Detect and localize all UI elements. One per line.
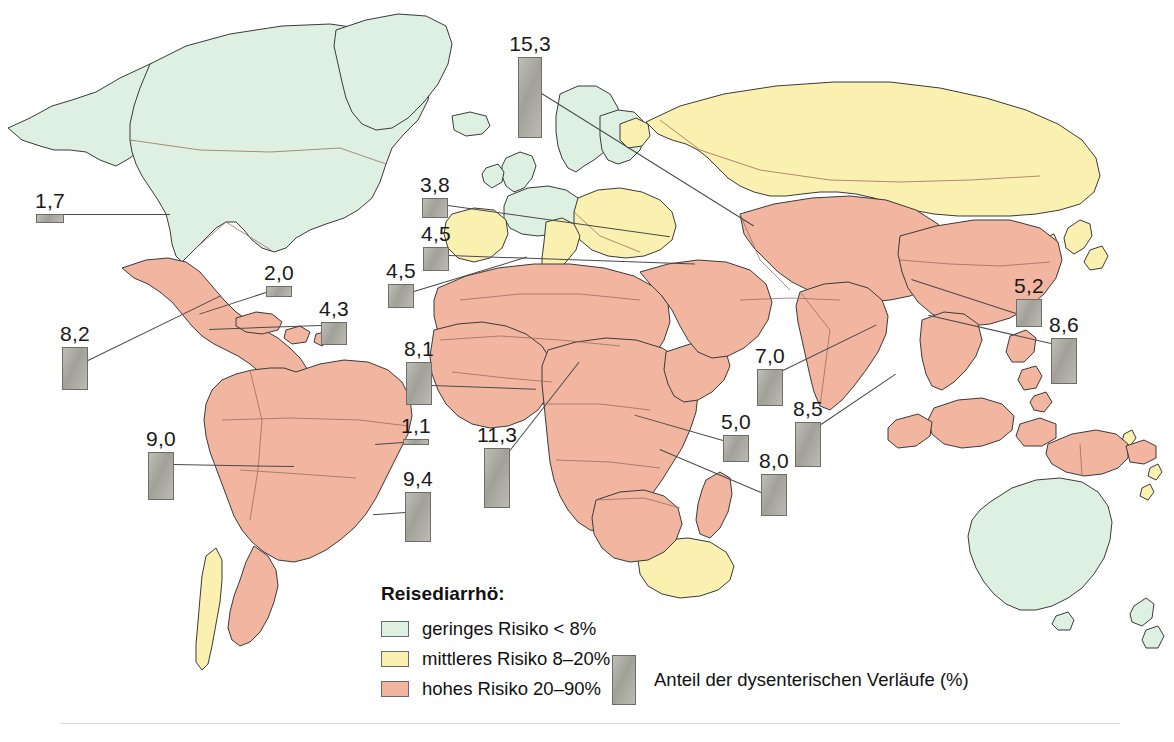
legend-label-low: geringes Risiko < 8% [422,618,596,640]
value-bar [1016,299,1042,327]
value-label: 1,7 [35,189,65,213]
data-marker: 4,5 [423,247,449,271]
legend: Reisediarrhö: geringes Risiko < 8%mittle… [381,583,610,704]
value-bar [423,247,449,271]
value-label: 8,6 [1049,313,1079,337]
value-label: 2,0 [264,261,294,285]
data-marker: 7,0 [757,369,783,406]
legend-title: Reisediarrhö: [381,583,610,605]
data-marker: 1,1 [403,439,429,445]
value-bar [518,57,542,138]
data-marker: 1,7 [36,214,64,223]
value-bar [761,474,787,516]
value-bar [36,214,64,223]
value-label: 7,0 [755,344,785,368]
value-label: 1,1 [401,414,431,438]
legend-swatch-high [381,681,409,697]
value-bar [148,452,174,500]
value-label: 9,4 [403,467,433,491]
legend-swatch-low [381,621,409,637]
value-label: 8,1 [404,337,434,361]
value-label: 4,5 [421,222,451,246]
value-bar [406,362,432,405]
value-bar [403,439,429,445]
value-bar [405,492,431,542]
value-label: 9,0 [146,427,176,451]
value-label: 8,2 [60,322,90,346]
value-label: 5,2 [1014,274,1044,298]
legend-label-high: hohes Risiko 20–90% [422,678,601,700]
legend-swatch-medium [381,651,409,667]
value-label: 8,0 [759,449,789,473]
value-bar [1051,338,1077,384]
value-bar [795,422,821,467]
value-label: 3,8 [420,173,450,197]
data-marker: 8,0 [761,474,787,516]
bar-legend-label: Anteil der dysenterischen Verläufe (%) [654,669,969,691]
bar-legend-swatch [612,655,636,705]
legend-rows: geringes Risiko < 8%mittleres Risiko 8–2… [381,614,610,704]
value-bar [422,198,448,218]
leader-line [64,214,170,215]
value-bar [484,448,510,508]
data-marker: 8,6 [1051,338,1077,384]
value-label: 8,5 [793,397,823,421]
value-bar [62,347,88,390]
data-marker: 15,3 [518,57,542,138]
data-marker: 11,3 [484,448,510,508]
value-label: 4,3 [319,297,349,321]
value-label: 15,3 [509,32,551,56]
value-bar [388,284,414,308]
data-marker: 8,2 [62,347,88,390]
legend-item-medium: mittleres Risiko 8–20% [381,644,610,674]
data-marker: 4,5 [388,284,414,308]
legend-item-high: hohes Risiko 20–90% [381,674,610,704]
value-label: 4,5 [386,259,416,283]
legend-label-medium: mittleres Risiko 8–20% [422,648,610,670]
data-marker: 2,0 [266,286,292,297]
data-marker: 3,8 [422,198,448,218]
value-label: 5,0 [721,410,751,434]
data-marker: 4,3 [321,322,347,345]
value-bar [757,369,783,406]
data-marker: 9,0 [148,452,174,500]
figure-root: 1,715,33,84,54,58,22,04,38,11,111,39,45,… [0,0,1174,742]
data-marker: 5,2 [1016,299,1042,327]
data-marker: 8,1 [406,362,432,405]
bar-legend: Anteil der dysenterischen Verläufe (%) [612,655,969,705]
data-marker: 5,0 [723,435,749,462]
value-bar [723,435,749,462]
data-marker: 9,4 [405,492,431,542]
legend-item-low: geringes Risiko < 8% [381,614,610,644]
data-marker: 8,5 [795,422,821,467]
footer-rule [60,723,1120,724]
value-bar [321,322,347,345]
value-bar [266,286,292,297]
value-label: 11,3 [477,423,517,447]
